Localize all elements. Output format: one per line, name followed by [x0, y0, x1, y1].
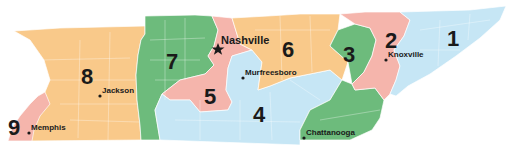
city-nashville: Nashville — [221, 34, 269, 46]
city-knoxville: Knoxville — [388, 50, 424, 59]
city-memphis: Memphis — [31, 123, 66, 132]
district-9-label: 9 — [8, 115, 20, 140]
district-8-label: 8 — [81, 64, 93, 89]
district-1-label: 1 — [447, 26, 459, 51]
district-7-label: 7 — [166, 49, 178, 74]
city-murfreesboro: Murfreesboro — [245, 68, 297, 77]
map-canvas: 1 2 3 4 5 6 7 8 9 Nashville Murfreesboro… — [0, 0, 506, 152]
district-6-label: 6 — [282, 37, 294, 62]
district-5-label: 5 — [204, 84, 216, 109]
city-jackson: Jackson — [102, 86, 134, 95]
district-4-label: 4 — [253, 102, 266, 127]
city-chattanooga: Chattanooga — [306, 128, 355, 137]
district-3-label: 3 — [343, 42, 355, 67]
tennessee-district-map: 1 2 3 4 5 6 7 8 9 Nashville Murfreesboro… — [0, 0, 506, 152]
